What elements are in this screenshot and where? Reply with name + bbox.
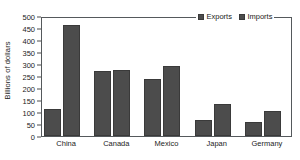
bar-group bbox=[142, 18, 192, 136]
x-axis-tick-labels: ChinaCanadaMexicoJapanGermany bbox=[41, 139, 292, 155]
plot-area bbox=[41, 17, 292, 137]
y-tick-label: 350 bbox=[22, 49, 35, 58]
legend-label: Exports bbox=[207, 12, 232, 21]
y-tick-label: 100 bbox=[22, 109, 35, 118]
bar-imports-canada bbox=[113, 70, 130, 136]
legend-item-exports[interactable]: Exports bbox=[198, 12, 232, 21]
bar-chart: Billions of dollars 05010015020025030035… bbox=[0, 0, 300, 160]
y-tick-label: 500 bbox=[22, 13, 35, 22]
chart-legend: ExportsImports bbox=[196, 11, 274, 22]
y-tick-label: 200 bbox=[22, 85, 35, 94]
legend-swatch-exports bbox=[198, 14, 204, 20]
bars-layer bbox=[42, 18, 291, 136]
bar-imports-mexico bbox=[163, 66, 180, 136]
x-tick-label: China bbox=[56, 139, 76, 148]
y-tick-label: 150 bbox=[22, 97, 35, 106]
bar-exports-canada bbox=[94, 71, 111, 136]
bar-group bbox=[42, 18, 92, 136]
bar-exports-mexico bbox=[144, 79, 161, 136]
bar-imports-japan bbox=[214, 104, 231, 136]
y-tick-label: 50 bbox=[27, 121, 35, 130]
bar-exports-japan bbox=[195, 120, 212, 136]
x-tick-label: Canada bbox=[103, 139, 129, 148]
x-tick-label: Mexico bbox=[155, 139, 179, 148]
x-tick-label: Germany bbox=[251, 139, 282, 148]
bar-exports-germany bbox=[245, 122, 262, 136]
bar-imports-germany bbox=[264, 111, 281, 136]
y-axis-tick-labels: 050100150200250300350400450500 bbox=[14, 17, 37, 137]
y-tick-label: 400 bbox=[22, 37, 35, 46]
y-tick-label: 0 bbox=[31, 133, 35, 142]
legend-item-imports[interactable]: Imports bbox=[239, 12, 273, 21]
legend-label: Imports bbox=[247, 12, 272, 21]
y-tick-label: 450 bbox=[22, 25, 35, 34]
y-tick-label: 250 bbox=[22, 73, 35, 82]
y-tick-label: 300 bbox=[22, 61, 35, 70]
y-axis-title: Billions of dollars bbox=[0, 0, 14, 140]
legend-swatch-imports bbox=[239, 14, 245, 20]
bar-group bbox=[243, 18, 293, 136]
bar-exports-china bbox=[44, 109, 61, 136]
bar-group bbox=[193, 18, 243, 136]
bar-imports-china bbox=[63, 25, 80, 136]
x-tick-label: Japan bbox=[206, 139, 226, 148]
y-axis-title-label: Billions of dollars bbox=[3, 41, 12, 99]
bar-group bbox=[92, 18, 142, 136]
